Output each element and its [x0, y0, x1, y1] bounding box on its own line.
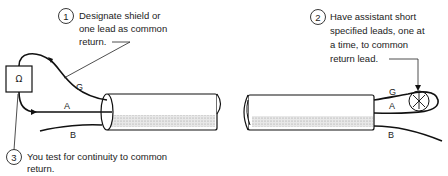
callout-2-arrow-icon	[415, 85, 421, 91]
callout-2-line-1: Have assistant short	[330, 11, 416, 22]
wire-b-right	[374, 126, 442, 141]
left-cable	[101, 94, 221, 130]
callout-3-line-1: You test for continuity to common	[27, 151, 167, 162]
short-point-icon	[409, 91, 429, 111]
callout-1-leader	[64, 42, 130, 78]
ohm-symbol: Ω	[16, 74, 23, 84]
label-g-right: G	[389, 87, 396, 97]
callout-1: 1 Designate shield or one lead as common…	[59, 9, 168, 79]
callout-1-line-1: Designate shield or	[79, 10, 160, 21]
callout-2-line-2: specified leads, one at	[330, 25, 425, 36]
callout-1-line-3: return.	[79, 36, 106, 47]
callout-1-number: 1	[63, 11, 68, 22]
wire-a-arrow-icon	[31, 109, 37, 115]
right-cable	[244, 95, 374, 130]
label-a-right: A	[389, 101, 395, 111]
callout-3-leader	[14, 94, 18, 150]
callout-1-line-2: one lead as common	[79, 23, 167, 34]
callout-2-line-3: a time, to common	[330, 39, 408, 50]
label-a-left: A	[64, 101, 70, 111]
label-b-right: B	[388, 130, 394, 140]
callout-3-number: 3	[11, 152, 16, 163]
callout-2-number: 2	[315, 12, 320, 23]
label-b-left: B	[70, 130, 76, 140]
label-g-left: G	[76, 82, 83, 92]
callout-2: 2 Have assistant short specified leads, …	[311, 10, 425, 92]
continuity-test-diagram: Ω G A B 1 Designate shield or one lead a…	[0, 0, 448, 176]
callout-3-line-2: return.	[27, 163, 54, 174]
ohmmeter: Ω	[6, 66, 32, 92]
callout-2-line-4: return lead.	[330, 53, 378, 64]
callout-2-leader	[389, 59, 418, 88]
